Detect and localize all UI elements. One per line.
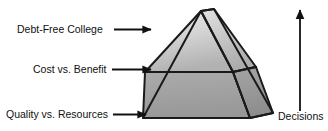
label-decisions: Decisions (278, 110, 324, 122)
label-group-middle: Cost vs. Benefit (33, 63, 151, 75)
label-group-bottom: Quality vs. Resources (6, 108, 146, 120)
pyramid-diagram: Debt-Free College Cost vs. Benefit Quali… (0, 0, 328, 131)
front-lower-face (143, 72, 250, 118)
diagram-canvas: Debt-Free College Cost vs. Benefit Quali… (0, 0, 328, 131)
label-cost-vs-benefit: Cost vs. Benefit (33, 63, 107, 75)
label-group-top: Debt-Free College (17, 23, 151, 35)
label-quality-vs-resources: Quality vs. Resources (6, 108, 108, 120)
pyramid-shape (143, 9, 273, 118)
decisions-axis-group: Decisions (278, 10, 324, 122)
label-debt-free-college: Debt-Free College (17, 23, 103, 35)
